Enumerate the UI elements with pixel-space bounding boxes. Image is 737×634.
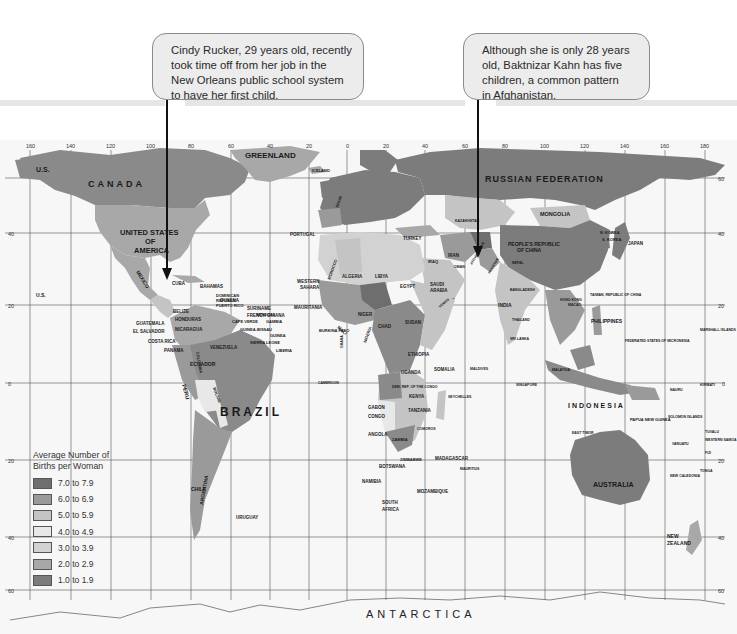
label-costa-rica: COSTA RICA — [148, 339, 176, 344]
label-maldives: MALDIVES — [470, 367, 489, 371]
label-gambia: GAMBIA — [266, 319, 282, 324]
label-sudan: SUDAN — [405, 320, 421, 325]
callout-right-line-3: children, a common pattern — [482, 73, 637, 88]
svg-text:20: 20 — [8, 458, 14, 464]
label-fiji: FIJI — [705, 451, 711, 455]
legend-label: 2.0 to 2.9 — [58, 559, 93, 569]
legend-item: 7.0 to 7.9 — [33, 475, 143, 491]
label-nepal: NEPAL — [512, 261, 524, 265]
label-chad: CHAD — [378, 324, 392, 329]
svg-text:60: 60 — [228, 143, 234, 149]
label-mauritania: MAURITANIA — [294, 305, 323, 310]
legend-swatch — [33, 542, 52, 553]
label-brazil: BRAZIL — [220, 405, 282, 419]
callout-right-line-1: Although she is only 28 years — [482, 43, 637, 58]
legend-label: 5.0 to 5.9 — [58, 510, 93, 520]
label-dem-rep-congo: DEM. REP. OF THE CONGO — [392, 385, 438, 389]
label-el-salvador: EL SALVADOR — [133, 329, 165, 334]
label-usa-2: OF — [145, 237, 156, 246]
legend-swatch — [33, 510, 52, 521]
svg-text:60: 60 — [718, 176, 724, 182]
label-zambia: ZAMBIA — [392, 437, 408, 442]
legend-item: 4.0 to 4.9 — [33, 524, 143, 540]
label-seychelles: SEYCHELLES — [448, 395, 472, 399]
svg-text:120: 120 — [580, 143, 589, 149]
label-madagascar: MADAGASCAR — [435, 456, 469, 461]
label-somalia: SOMALIA — [434, 367, 455, 372]
svg-text:80: 80 — [502, 143, 508, 149]
label-gabon: GABON — [368, 405, 385, 410]
callout-cindy-rucker: Cindy Rucker, 29 years old, recently too… — [152, 33, 364, 100]
label-egypt: EGYPT — [400, 284, 416, 289]
label-niger: NIGER — [358, 312, 373, 317]
label-comoros: COMOROS — [417, 427, 436, 431]
svg-text:100: 100 — [146, 143, 155, 149]
label-suriname: SURINAME — [247, 306, 271, 311]
label-tuvalu: TUVALU — [705, 430, 719, 434]
legend-title-line-2: Births per Woman — [33, 461, 143, 472]
decorative-strip — [185, 100, 465, 106]
label-iraq: IRAQ — [428, 259, 438, 264]
label-papua-new-guinea: PAPUA NEW GUINEA — [630, 417, 671, 422]
legend-label: 1.0 to 1.9 — [58, 575, 93, 585]
legend-item: 5.0 to 5.9 — [33, 507, 143, 523]
label-singapore: SINGAPORE — [516, 383, 538, 387]
legend-label: 3.0 to 3.9 — [58, 543, 93, 553]
svg-text:60: 60 — [8, 588, 14, 594]
label-south-africa-2: AFRICA — [382, 507, 400, 512]
label-venezuela: VENEZUELA — [210, 345, 238, 350]
label-taiwan: TAIWAN, REPUBLIC OF CHINA — [590, 293, 642, 297]
svg-text:120: 120 — [106, 143, 115, 149]
label-us-hawaii: U.S. — [36, 292, 46, 298]
label-canada: CANADA — [88, 179, 145, 189]
label-guinea: GUINEA — [270, 333, 286, 338]
label-tonga: TONGA — [700, 469, 713, 473]
label-kiribati: KIRIBATI — [700, 383, 715, 387]
label-turkey: TURKEY — [403, 236, 422, 241]
label-uruguay: URUGUAY — [236, 515, 258, 520]
callout-left-line-3: New Orleans public school system — [171, 73, 351, 88]
svg-text:40: 40 — [267, 143, 273, 149]
decorative-strip — [496, 100, 737, 106]
label-malaysia: MALAYSIA — [552, 368, 570, 372]
label-ethiopia: ETHIOPIA — [408, 352, 430, 357]
callout-baktnizar-kahn: Although she is only 28 years old, Baktn… — [463, 33, 650, 100]
svg-text:40: 40 — [718, 231, 724, 237]
label-japan: JAPAN — [628, 241, 643, 246]
callout-left-line-2: took time off from her job in the — [171, 58, 351, 73]
label-honduras: HONDURAS — [175, 317, 201, 322]
legend-swatch — [33, 526, 52, 537]
label-panama: PANAMA — [164, 348, 184, 353]
label-kenya: KENYA — [409, 394, 425, 399]
label-china-2: OF CHINA — [517, 247, 542, 253]
svg-text:20: 20 — [718, 303, 724, 309]
label-micronesia: FEDERATED STATES OF MICRONESIA — [625, 339, 690, 343]
label-congo: CONGO — [368, 414, 386, 419]
legend-swatch — [33, 494, 52, 505]
legend-item: 3.0 to 3.9 — [33, 540, 143, 556]
label-namibia: NAMIBIA — [362, 479, 382, 484]
label-s-korea: S. KOREA — [602, 237, 621, 242]
label-mauritius: MAURITIUS — [460, 467, 480, 471]
legend-swatch — [33, 478, 52, 489]
label-usa-1: UNITED STATES — [120, 228, 178, 237]
label-us-alaska: U.S. — [36, 166, 50, 173]
label-liberia: LIBERIA — [276, 348, 292, 353]
label-nauru: NAURU — [670, 388, 683, 392]
svg-text:140: 140 — [66, 143, 75, 149]
label-senegal: SENEGAL — [256, 312, 276, 317]
svg-text:160: 160 — [660, 143, 669, 149]
label-western-samoa: WESTERN SAMOA — [705, 438, 737, 442]
svg-text:20: 20 — [306, 143, 312, 149]
label-zimbabwe: ZIMBABWE — [400, 457, 422, 462]
label-indonesia: INDONESIA — [568, 402, 625, 409]
svg-text:100: 100 — [540, 143, 549, 149]
label-new-caledonia: NEW CALEDONIA — [670, 474, 700, 478]
label-philippines: PHILIPPINES — [591, 318, 623, 324]
arrow-head-new-orleans-icon — [162, 268, 172, 280]
label-cape-verde: CAPE VERDE — [232, 319, 258, 324]
svg-text:20: 20 — [718, 458, 724, 464]
label-western-sahara-1: WESTERN — [297, 279, 320, 284]
label-mozambique: MOZAMBIQUE — [417, 489, 448, 494]
label-australia: AUSTRALIA — [593, 481, 633, 488]
